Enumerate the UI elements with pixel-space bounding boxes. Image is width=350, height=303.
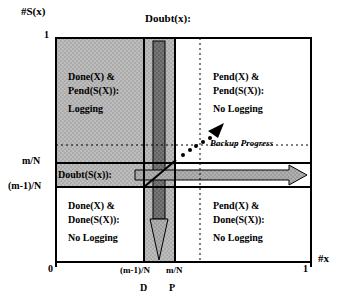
quadrant-bl-line1: Done(X) & [68,200,115,211]
quadrant-bl-line2: Done(S(X)): [68,214,120,225]
quadrant-br-line1: Pend(X) & [213,200,259,211]
quadrant-br-line3: No Logging [213,232,263,243]
doubt-x-bar [153,41,165,219]
quadrant-tr-line3: No Logging [213,103,263,114]
backup-progress-arrowhead [208,123,224,138]
y-tick-m1n: (m-1)/N [8,180,41,191]
quadrant-label-top-left: Done(X) & Pend(S(X)): Logging [68,70,119,116]
pointer-label-d: D [140,282,147,293]
quadrant-label-top-right: Pend(X) & Pend(S(X)): No Logging [213,70,264,116]
quadrant-tl-line2: Pend(S(X)): [68,85,119,96]
doubt-sx-label: Doubt(S(x)): [58,169,112,180]
quadrant-label-bottom-left: Done(X) & Done(S(X)): No Logging [68,199,120,245]
quadrant-label-bottom-right: Pend(X) & Done(S(X)): No Logging [213,199,265,245]
backup-progress-label: Backup Progress [210,138,273,148]
quadrant-bl-line3: No Logging [68,232,118,243]
quadrant-br-line2: Done(S(X)): [213,214,265,225]
y-tick-mn: m/N [22,155,40,166]
y-tick-1: 1 [44,29,49,40]
quadrant-tl-line1: Done(X) & [68,71,115,82]
progress-dot [201,140,205,144]
x-tick-mn: m/N [166,265,183,275]
x-tick-1: 1 [303,263,308,274]
progress-dot [188,148,192,152]
quadrant-tl-line3: Logging [68,103,103,114]
diagram-canvas: #S(x) #x Doubt(x): 1 m/N (m-1)/N 0 (m-1)… [0,0,350,303]
doubt-x-title: Doubt(x): [145,12,191,24]
y-axis-title: #S(x) [21,5,45,17]
x-tick-0: 0 [48,263,53,274]
pointer-label-p: P [169,282,175,293]
quadrant-tr-line1: Pend(X) & [213,71,259,82]
quadrant-tr-line2: Pend(S(X)): [213,85,264,96]
x-axis-title: #x [318,252,329,264]
x-tick-m1n: (m-1)/N [120,265,150,275]
progress-dot [181,153,185,157]
progress-dot [194,144,198,148]
diagram-graphics [0,0,350,303]
